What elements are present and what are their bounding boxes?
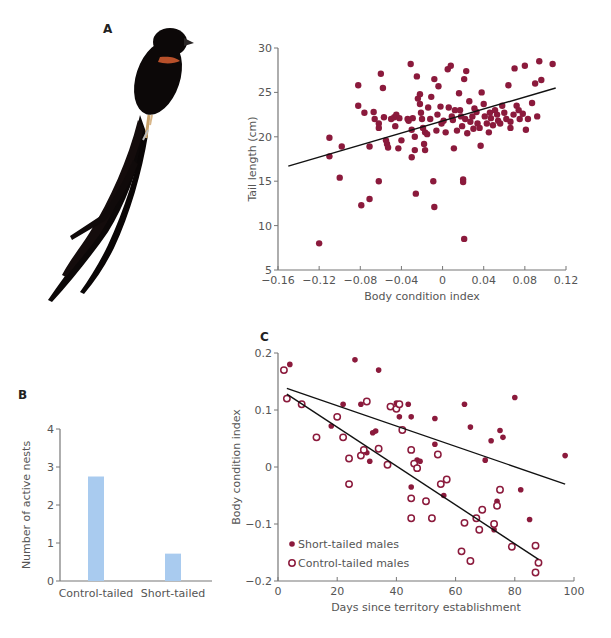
data-point [408, 515, 414, 521]
data-point [334, 414, 340, 420]
data-point [346, 455, 352, 461]
data-point [340, 402, 346, 408]
data-point [476, 527, 482, 533]
data-point [408, 495, 414, 501]
data-point [491, 521, 497, 527]
legend-open-marker-icon [289, 560, 295, 566]
y-tick-label: −0.1 [245, 518, 272, 531]
data-point [397, 414, 403, 420]
x-tick-label: 60 [449, 585, 463, 598]
data-point [340, 434, 346, 440]
short-tailed-points [287, 357, 568, 532]
x-tick-label: 20 [330, 585, 344, 598]
legend-label-control-tailed: Control-tailed males [298, 557, 409, 570]
data-point [468, 424, 474, 430]
x-tick-label: 40 [389, 585, 403, 598]
data-point [497, 487, 503, 493]
y-tick-label: 0.2 [255, 347, 273, 360]
data-point [414, 465, 420, 471]
data-point [361, 447, 367, 453]
data-point [482, 457, 488, 463]
data-point [532, 542, 538, 548]
legend-label-short-tailed: Short-tailed males [298, 538, 399, 551]
x-tick-label: 0 [275, 585, 282, 598]
data-point [417, 459, 423, 465]
x-tick-label: 100 [564, 585, 585, 598]
data-point [509, 544, 515, 550]
data-point [488, 438, 494, 444]
y-axis-title: Body condition index [230, 409, 243, 525]
data-point [346, 481, 352, 487]
data-point [408, 447, 414, 453]
x-axis-title: Days since territory establishment [331, 601, 521, 614]
data-point [364, 398, 370, 404]
data-point [370, 430, 376, 436]
data-point [384, 462, 390, 468]
data-point [500, 435, 506, 441]
data-point [408, 414, 414, 420]
y-tick-label: −0.2 [245, 575, 272, 588]
data-point [352, 357, 358, 363]
data-point [396, 401, 402, 407]
data-point [444, 476, 450, 482]
data-point [405, 402, 411, 408]
data-point [376, 367, 382, 373]
data-point [313, 434, 319, 440]
data-point [535, 560, 541, 566]
data-point [438, 481, 444, 487]
data-point [458, 548, 464, 554]
legend-filled-marker-icon [289, 541, 295, 547]
data-point [375, 446, 381, 452]
data-point [497, 428, 503, 434]
data-point [408, 484, 414, 490]
data-point [461, 520, 467, 526]
data-point [432, 441, 438, 447]
legend: Short-tailed malesControl-tailed males [289, 538, 410, 570]
data-point [358, 402, 364, 408]
y-tick-label: 0.1 [255, 404, 273, 417]
body-condition-scatter-chart: 020406080100−0.2−0.100.10.2Short-tailed … [0, 0, 611, 638]
data-point [423, 498, 429, 504]
data-point [467, 558, 473, 564]
x-tick-label: 80 [508, 585, 522, 598]
data-point [432, 416, 438, 422]
short-tailed-regression-line [287, 388, 565, 484]
data-point [562, 453, 568, 459]
data-point [518, 487, 524, 493]
data-point [281, 367, 287, 373]
data-point [367, 459, 373, 465]
data-point [494, 503, 500, 509]
data-point [532, 569, 538, 575]
data-point [287, 362, 293, 368]
data-point [435, 451, 441, 457]
y-tick-label: 0 [265, 461, 272, 474]
data-point [429, 515, 435, 521]
data-point [527, 517, 533, 523]
data-point [479, 507, 485, 513]
data-point [462, 402, 468, 408]
data-point [512, 395, 518, 401]
data-point [284, 395, 290, 401]
